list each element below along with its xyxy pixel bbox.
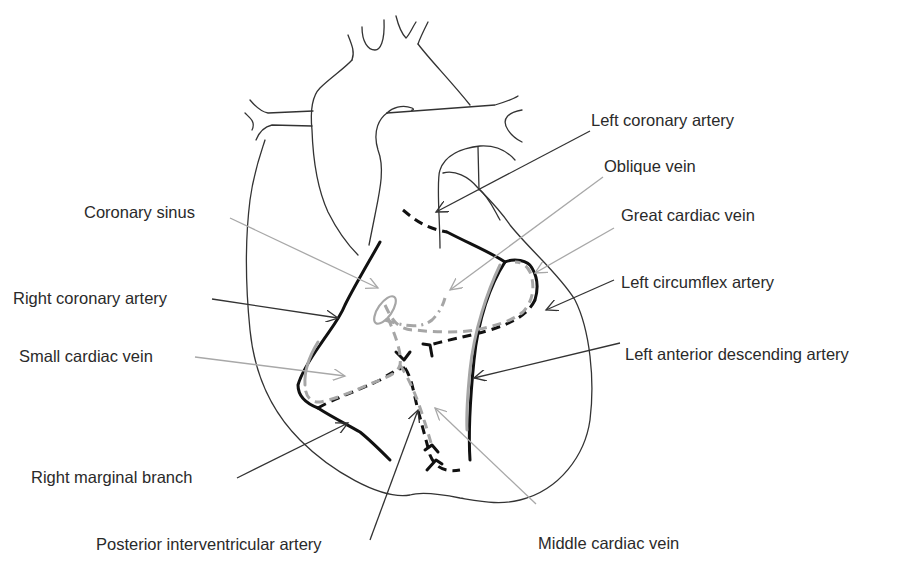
heart-outline (245, 16, 592, 503)
leader-oblique-vein (450, 177, 603, 290)
label-coronary-sinus: Coronary sinus (84, 204, 195, 221)
label-right-marginal-branch: Right marginal branch (31, 469, 192, 486)
label-small-cardiac-vein: Small cardiac vein (19, 348, 153, 365)
leader-middle-cardiac-vein (435, 408, 536, 504)
label-great-cardiac-vein: Great cardiac vein (621, 207, 755, 224)
leader-left-circumflex-artery (546, 280, 614, 310)
label-oblique-vein: Oblique vein (604, 158, 696, 175)
right-coronary-artery-path (298, 242, 380, 408)
label-middle-cardiac-vein: Middle cardiac vein (538, 535, 679, 552)
leader-left-coronary-artery (436, 131, 590, 212)
leader-left-anterior-descending-artery (474, 343, 620, 378)
arteries (298, 232, 537, 460)
label-right-coronary-artery: Right coronary artery (13, 290, 167, 307)
leader-great-cardiac-vein (535, 228, 614, 273)
posterior-interventricular-path (405, 368, 460, 471)
label-posterior-interventricular-artery: Posterior interventricular artery (96, 536, 322, 553)
leader-right-coronary-artery (212, 299, 338, 318)
posterior-arteries (318, 210, 535, 471)
oblique-vein-path (385, 298, 445, 326)
label-left-anterior-descending-artery: Left anterior descending artery (625, 346, 849, 363)
leader-posterior-interventricular-artery (370, 410, 418, 540)
label-left-circumflex-artery: Left circumflex artery (621, 274, 774, 291)
leader-small-cardiac-vein (195, 357, 345, 376)
leader-lines (195, 131, 620, 540)
label-left-coronary-artery: Left coronary artery (591, 112, 734, 129)
left-coronary-stub (403, 210, 447, 232)
